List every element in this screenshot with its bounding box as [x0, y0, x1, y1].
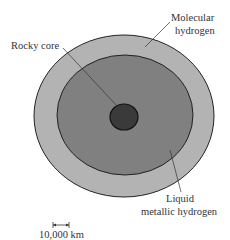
- diagram-canvas: Molecular hydrogen Rocky core Liquid met…: [0, 0, 230, 240]
- label-rocky-core: Rocky core: [11, 40, 59, 51]
- scale-bar: [53, 222, 69, 228]
- label-liquid-line2: metallic hydrogen: [141, 206, 218, 217]
- label-molecular-line2: hydrogen: [175, 25, 215, 36]
- scale-bar-label: 10,000 km: [39, 229, 84, 240]
- label-liquid-line1: Liquid: [166, 193, 195, 204]
- rocky-core: [110, 104, 138, 130]
- label-molecular-line1: Molecular: [171, 12, 215, 23]
- planet-interior-diagram: Molecular hydrogen Rocky core Liquid met…: [0, 0, 230, 240]
